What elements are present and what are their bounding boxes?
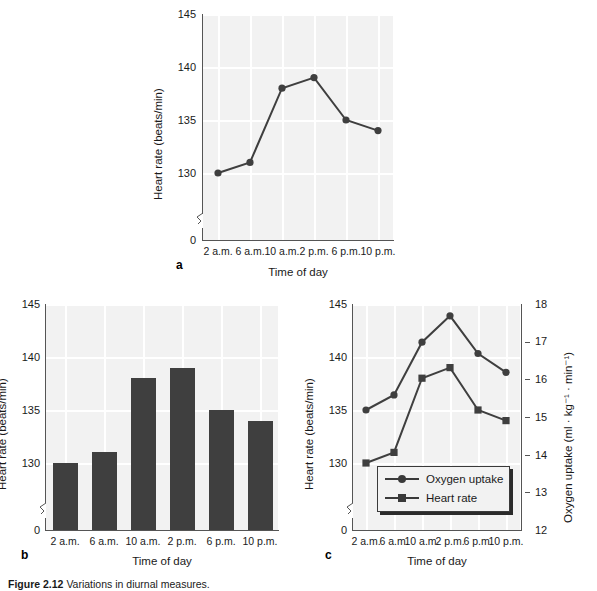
panel-b-x-axis-title: Time of day bbox=[92, 555, 232, 567]
data-point bbox=[374, 127, 381, 134]
panel-c-x-axis-title: Time of day bbox=[367, 555, 507, 567]
panel-b-x-axis bbox=[45, 530, 279, 531]
figure-root: 145 140 135 130 0 Heart rate (beats/min)… bbox=[0, 0, 597, 591]
panel-c-axis-break-icon bbox=[347, 502, 358, 516]
legend: Oxygen uptake Heart rate bbox=[377, 466, 510, 512]
ytick-label-right: 15 bbox=[535, 412, 547, 423]
xtick-label: 10 p.m. bbox=[478, 536, 534, 547]
data-point bbox=[214, 169, 221, 176]
ytick-label: 140 bbox=[158, 62, 196, 73]
panel-c-y-axis-left-lower bbox=[352, 518, 353, 530]
data-point bbox=[390, 391, 397, 398]
panel-a-plot-area bbox=[203, 14, 393, 240]
panel-c-y-axis-left bbox=[352, 304, 353, 503]
panel-c-y-axis-title-left: Heart rate (beats/min) bbox=[303, 378, 315, 490]
legend-label: Oxygen uptake bbox=[426, 473, 503, 485]
legend-item-oxygen-uptake: Oxygen uptake bbox=[385, 473, 503, 485]
panel-a-y-axis bbox=[202, 14, 203, 214]
figure-caption-text: Variations in diurnal measures. bbox=[66, 578, 209, 590]
bar bbox=[131, 378, 156, 530]
data-point bbox=[446, 312, 453, 319]
panel-b: 145 140 135 130 0 Heart rate (beats/min)… bbox=[0, 295, 290, 585]
figure-caption: Figure 2.12 Variations in diurnal measur… bbox=[8, 578, 588, 590]
panel-c-y-axis-right bbox=[521, 304, 522, 530]
series-oxygen-uptake-line bbox=[366, 316, 506, 410]
ytick-label: 145 bbox=[158, 9, 196, 20]
data-point bbox=[474, 350, 481, 357]
data-point bbox=[278, 85, 285, 92]
panel-a-y-axis-title: Heart rate (beats/min) bbox=[152, 88, 164, 200]
panel-b-y-axis-title: Heart rate (beats/min) bbox=[0, 378, 8, 490]
bar bbox=[92, 452, 117, 530]
panel-a-series-layer bbox=[203, 14, 393, 240]
legend-item-heart-rate: Heart rate bbox=[385, 492, 477, 504]
ytick-mark bbox=[525, 379, 530, 380]
bar bbox=[248, 421, 273, 530]
panel-a-axis-break-icon bbox=[197, 212, 208, 226]
panel-a: 145 140 135 130 0 Heart rate (beats/min)… bbox=[0, 0, 420, 292]
data-point bbox=[362, 406, 369, 413]
ytick-mark bbox=[525, 417, 530, 418]
data-point bbox=[502, 369, 509, 376]
series-heart-rate-line bbox=[366, 368, 506, 463]
legend-label: Heart rate bbox=[426, 492, 477, 504]
panel-b-letter: b bbox=[21, 548, 28, 562]
ytick-label-right: 16 bbox=[535, 374, 547, 385]
panel-c: Oxygen uptake Heart rate 145 140 135 130 bbox=[297, 295, 597, 585]
ytick-mark bbox=[525, 492, 530, 493]
panel-b-axis-break-icon bbox=[40, 502, 51, 516]
panel-a-letter: a bbox=[176, 258, 183, 272]
data-point bbox=[446, 364, 453, 371]
ytick-label: 145 bbox=[2, 299, 40, 310]
panel-c-plot-area: Oxygen uptake Heart rate bbox=[353, 304, 520, 530]
series-heart-rate-line bbox=[218, 78, 378, 173]
data-point bbox=[362, 459, 369, 466]
xtick-label: 10 p.m. bbox=[346, 246, 410, 257]
ytick-label-right: 13 bbox=[535, 487, 547, 498]
panel-a-x-axis-title: Time of day bbox=[228, 266, 368, 278]
data-point bbox=[418, 375, 425, 382]
panel-b-y-axis-lower bbox=[45, 518, 46, 530]
data-point bbox=[310, 74, 317, 81]
data-point bbox=[502, 417, 509, 424]
data-point bbox=[390, 449, 397, 456]
panel-a-x-axis bbox=[202, 240, 394, 241]
panel-c-letter: c bbox=[325, 548, 332, 562]
panel-c-x-axis bbox=[352, 530, 522, 531]
ytick-label: 140 bbox=[309, 352, 347, 363]
gridline-h bbox=[46, 357, 278, 359]
figure-caption-label: Figure 2.12 bbox=[8, 578, 63, 590]
ytick-label-right: 17 bbox=[535, 336, 547, 347]
data-point bbox=[474, 406, 481, 413]
ytick-mark bbox=[525, 342, 530, 343]
ytick-label: 140 bbox=[2, 352, 40, 363]
data-point bbox=[246, 159, 253, 166]
ytick-label-right: 18 bbox=[535, 299, 547, 310]
data-point bbox=[342, 116, 349, 123]
panel-b-plot-area bbox=[46, 304, 278, 530]
ytick-label: 0 bbox=[2, 525, 40, 536]
legend-marker-circle-icon bbox=[385, 474, 419, 484]
ytick-label: 0 bbox=[309, 525, 347, 536]
panel-c-y-axis-title-right: Oxygen uptake (ml · kg⁻¹ · min⁻¹) bbox=[561, 352, 575, 523]
panel-b-y-axis bbox=[45, 304, 46, 503]
ytick-label-right: 12 bbox=[535, 525, 547, 536]
data-point bbox=[418, 339, 425, 346]
gridline-h bbox=[46, 463, 278, 465]
legend-marker-square-icon bbox=[385, 493, 419, 503]
gridline-h bbox=[46, 410, 278, 412]
ytick-label-right: 14 bbox=[535, 450, 547, 461]
bar bbox=[209, 410, 234, 530]
ytick-mark bbox=[525, 455, 530, 456]
gridline-h bbox=[46, 304, 278, 306]
xtick-label: 10 p.m. bbox=[228, 536, 292, 547]
bar bbox=[170, 368, 195, 530]
ytick-label: 145 bbox=[309, 299, 347, 310]
bar bbox=[53, 463, 78, 530]
ytick-label: 0 bbox=[158, 235, 196, 246]
